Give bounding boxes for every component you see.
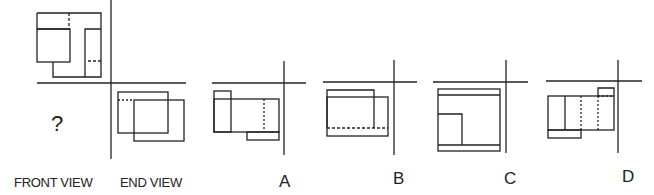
- unknown-front-view-marker: ?: [51, 111, 63, 137]
- front-view-label: FRONT VIEW: [14, 175, 92, 190]
- option-a-label[interactable]: A: [279, 172, 290, 192]
- option-c-label[interactable]: C: [504, 169, 516, 189]
- option-a-drawing[interactable]: [212, 61, 306, 155]
- option-c-drawing[interactable]: [433, 60, 528, 153]
- option-b-drawing[interactable]: [323, 60, 417, 155]
- option-d-label[interactable]: D: [622, 167, 634, 187]
- top-view: [37, 13, 101, 77]
- end-view: [118, 92, 184, 141]
- orthographic-projection-diagram: [0, 0, 654, 195]
- option-d-drawing[interactable]: [546, 60, 642, 153]
- option-b-label[interactable]: B: [393, 169, 404, 189]
- end-view-label: END VIEW: [120, 175, 182, 190]
